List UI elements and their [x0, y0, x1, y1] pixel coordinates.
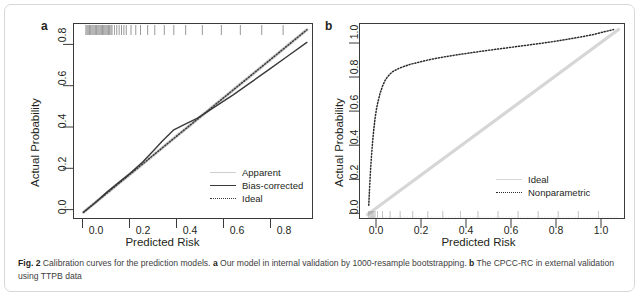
panel-a-legend-label-2: Ideal	[242, 192, 263, 205]
panel-a-y-tickmarks	[63, 23, 73, 219]
panel-b-legend-label-1: Nonparametric	[528, 186, 590, 199]
panel-a-letter: a	[41, 19, 48, 33]
panels-container: a Actual Probability Predicted Risk 0.0 …	[5, 5, 636, 253]
panel-b-x-axis-label: Predicted Risk	[321, 236, 636, 248]
caption-figure-number: Fig. 2	[18, 258, 40, 268]
panel-b-y-axis-label: Actual Probability	[333, 98, 345, 187]
panel-b-legend: Ideal Nonparametric	[496, 173, 590, 199]
panel-a-legend: Apparent Bias-corrected Ideal	[210, 166, 303, 205]
panel-a-legend-label-0: Apparent	[242, 166, 281, 179]
panel-a: a Actual Probability Predicted Risk 0.0 …	[5, 5, 320, 253]
panel-b-legend-label-0: Ideal	[528, 173, 549, 186]
panel-b-legend-item-nonparametric: Nonparametric	[496, 186, 590, 199]
panel-a-x-tickmarks	[73, 219, 313, 229]
panel-a-legend-item-ideal: Ideal	[210, 192, 303, 205]
panel-b-letter: b	[325, 19, 332, 33]
figure-caption: Fig. 2 Calibration curves for the predic…	[18, 257, 624, 282]
panel-a-legend-item-bias-corrected: Bias-corrected	[210, 179, 303, 192]
panel-b-legend-item-ideal: Ideal	[496, 173, 590, 186]
panel-a-legend-item-apparent: Apparent	[210, 166, 303, 179]
figure-frame: a Actual Probability Predicted Risk 0.0 …	[4, 4, 635, 292]
panel-a-legend-label-1: Bias-corrected	[242, 179, 303, 192]
panel-b-y-tickmarks	[349, 23, 359, 219]
caption-intro: Calibration curves for the prediction mo…	[40, 258, 212, 268]
panel-a-x-axis-label: Predicted Risk	[5, 236, 320, 248]
panel-a-y-axis-label: Actual Probability	[29, 98, 41, 187]
panel-b-x-tickmarks	[359, 219, 625, 229]
caption-text-a: Our model in internal validation by 1000…	[218, 258, 469, 268]
panel-b: b Actual Probability Predicted Risk 0.0 …	[321, 5, 636, 253]
